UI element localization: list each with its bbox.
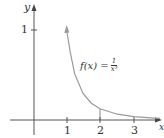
function-curve [67, 32, 160, 118]
function-label-prefix: f(x) = [80, 60, 109, 71]
fraction-denominator: x³ [111, 66, 118, 73]
y-axis-arrow-icon [32, 4, 37, 11]
x-tick-label-3: 3 [131, 124, 138, 137]
function-label: f(x) = 1 x³ [80, 58, 117, 73]
x-tick-label-1: 1 [64, 124, 71, 137]
chart: y x 1 1 2 3 f(x) = 1 x³ [0, 0, 164, 138]
y-axis-label: y [24, 1, 30, 14]
y-tick-label-1: 1 [21, 23, 28, 36]
curve-arrow-icon [64, 25, 69, 33]
x-tick-label-2: 2 [97, 124, 104, 137]
function-fraction: 1 x³ [111, 58, 118, 73]
x-axis-label: x [159, 122, 164, 132]
